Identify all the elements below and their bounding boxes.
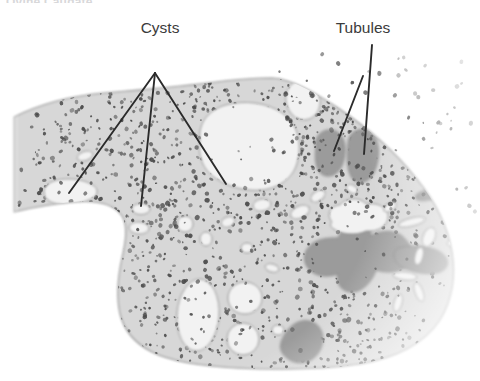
callout-label-cysts: Cysts	[141, 19, 180, 36]
histology-illustration: CystsTubules	[0, 0, 480, 381]
cyst-round-bottom-b	[227, 323, 259, 355]
speckle-dot	[431, 275, 434, 278]
figure-root: Ovine Caudate	[0, 0, 480, 381]
cyst-round-bottom-a	[228, 282, 262, 314]
cyst-large-central	[199, 103, 299, 191]
cyst-mid-round-a	[177, 216, 193, 232]
speckle-dot	[183, 246, 187, 250]
callout-label-tubules: Tubules	[336, 19, 391, 36]
speckle-dot	[340, 193, 343, 198]
speckle-dot	[313, 187, 317, 191]
cyst-mid-round-b	[200, 232, 212, 246]
cyst-bottom-small-c	[272, 325, 284, 335]
speckle-dot	[263, 191, 265, 192]
figure-title: Ovine Caudate	[6, 0, 93, 3]
speckle-dot	[141, 142, 143, 144]
